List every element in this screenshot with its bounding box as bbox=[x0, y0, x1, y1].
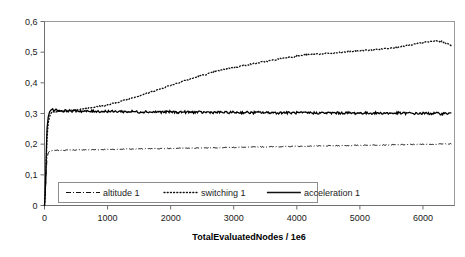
chart-legend: altitude 1switching 1acceleration 1 bbox=[59, 183, 360, 203]
x-axis: 0100020003000400050006000 bbox=[42, 206, 455, 223]
series-switching-1 bbox=[45, 41, 452, 206]
legend-label-switching-1: switching 1 bbox=[201, 188, 246, 198]
y-axis-tick-label: 0,3 bbox=[25, 109, 38, 119]
y-axis-tick-label: 0 bbox=[32, 201, 37, 211]
chart-container: 00,10,20,30,40,50,6 01000200030004000500… bbox=[0, 0, 465, 257]
line-chart: 00,10,20,30,40,50,6 01000200030004000500… bbox=[0, 0, 465, 257]
y-axis: 00,10,20,30,40,50,6 bbox=[25, 17, 45, 211]
x-axis-tick-label: 1000 bbox=[98, 213, 118, 223]
x-axis-tick-label: 6000 bbox=[413, 213, 433, 223]
y-axis-tick-label: 0,1 bbox=[25, 170, 38, 180]
legend-label-altitude-1: altitude 1 bbox=[103, 188, 140, 198]
y-axis-tick-label: 0,4 bbox=[25, 78, 38, 88]
x-axis-tick-label: 4000 bbox=[287, 213, 307, 223]
y-axis-tick-label: 0,6 bbox=[25, 17, 38, 27]
series-group bbox=[45, 41, 452, 206]
x-axis-tick-label: 3000 bbox=[224, 213, 244, 223]
x-axis-tick-label: 2000 bbox=[161, 213, 181, 223]
y-axis-tick-label: 0,2 bbox=[25, 139, 38, 149]
legend-label-acceleration-1: acceleration 1 bbox=[304, 188, 360, 198]
x-axis-tick-label: 0 bbox=[42, 213, 47, 223]
x-axis-tick-label: 5000 bbox=[350, 213, 370, 223]
y-axis-tick-label: 0,5 bbox=[25, 47, 38, 57]
x-axis-title: TotalEvaluatedNodes / 1e6 bbox=[192, 232, 305, 242]
